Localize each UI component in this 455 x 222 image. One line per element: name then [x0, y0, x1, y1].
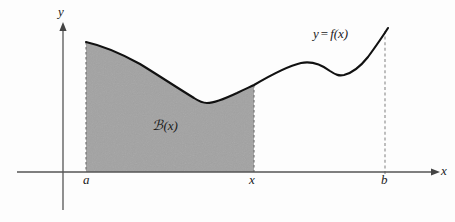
area-function-label: ℬ(x) — [152, 117, 178, 134]
shaded-area-region — [80, 36, 264, 178]
diagram-canvas — [0, 0, 455, 222]
curve-equation-label: y=f(x) — [313, 26, 348, 42]
y-axis — [59, 22, 66, 210]
curve-label-rhs: f(x) — [330, 26, 348, 41]
tick-label-a: a — [83, 172, 90, 188]
area-label-argument: (x) — [164, 118, 178, 133]
script-a-glyph: ℬ — [152, 117, 164, 133]
y-axis-arrowhead — [59, 22, 66, 31]
curve-label-equals: = — [319, 26, 330, 41]
x-axis-arrowhead — [431, 168, 440, 175]
y-axis-label: y — [58, 4, 64, 20]
curve-label-lhs: y — [313, 26, 319, 41]
tick-label-x: x — [249, 172, 255, 188]
figure-area-under-curve: y x a x b ℬ(x) y=f(x) — [0, 0, 455, 222]
x-axis-label: x — [441, 163, 447, 179]
tick-label-b: b — [381, 172, 388, 188]
